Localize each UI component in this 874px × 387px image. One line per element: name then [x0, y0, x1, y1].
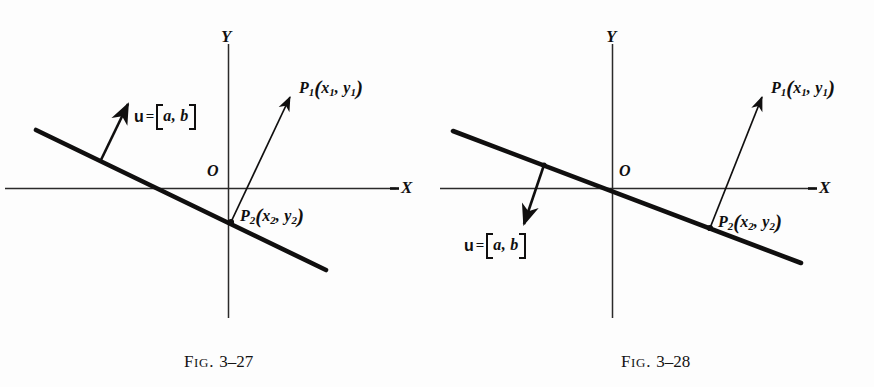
point-p1-coord-y-index: 1: [822, 86, 828, 98]
vector-components-bracket: a, b: [486, 235, 525, 256]
caption-prefix: F: [184, 352, 194, 371]
point-p2-coord-y-index: 2: [291, 214, 297, 226]
point-p1-name: P: [299, 79, 309, 96]
point-p2-coord-x-index: 2: [748, 220, 754, 232]
point-p1-name: P: [771, 79, 781, 96]
point-p2-dot: [707, 225, 713, 231]
vector-component-a: a: [493, 236, 501, 253]
point-p2-dot: [228, 219, 234, 225]
point-p2-index: 2: [250, 214, 256, 226]
figure-3-27-caption: FIG.3–27: [0, 352, 437, 372]
point-p1-index: 1: [309, 86, 315, 98]
caption-prefix-smallcaps: IG: [631, 355, 646, 370]
x-axis-label: X: [401, 179, 412, 196]
vector-component-comma: ,: [502, 236, 506, 253]
figure-3-27: Y X O u = a, b P1(x1, y1) P2(x2, y2) FIG…: [0, 0, 437, 387]
point-p1-coord-x-index: 1: [329, 86, 335, 98]
normal-vector-u: [524, 165, 544, 224]
vector-u-name: u: [464, 238, 474, 254]
point-p1-index: 1: [781, 86, 787, 98]
caption-number: 3–28: [656, 352, 690, 371]
figure-3-28-caption: FIG.3–28: [437, 352, 874, 372]
point-p1-label: P1(x1, y1): [771, 78, 835, 99]
normal-vector-u: [100, 104, 128, 162]
caption-prefix-smallcaps: IG: [194, 355, 209, 370]
point-p1-coord-y-index: 1: [350, 86, 356, 98]
given-line: [36, 130, 326, 270]
point-p2-coord-x-index: 2: [270, 214, 276, 226]
origin-label: O: [619, 163, 631, 179]
figure-3-28: Y X O u = a, b P1(x1, y1) P2(x2, y2) FIG…: [437, 0, 874, 387]
caption-period: .: [646, 352, 651, 371]
caption-prefix: F: [621, 352, 631, 371]
point-p2-name: P: [240, 207, 250, 224]
caption-number: 3–27: [219, 352, 253, 371]
point-p2-index: 2: [728, 220, 734, 232]
vector-u-name: u: [134, 109, 144, 125]
vector-component-comma: ,: [172, 107, 176, 124]
point-p1-label: P1(x1, y1): [299, 78, 363, 99]
point-p2-name: P: [718, 213, 728, 230]
caption-period: .: [209, 352, 214, 371]
vector-u-label: u = a, b: [464, 235, 526, 256]
x-axis-label: X: [819, 179, 830, 196]
origin-label: O: [207, 163, 219, 179]
vector-equals-sign: =: [146, 109, 155, 124]
point-p1-coord-x-index: 1: [801, 86, 807, 98]
point-p2-coord-y-index: 2: [769, 220, 775, 232]
vector-component-a: a: [163, 107, 171, 124]
vector-tail-dot: [541, 162, 546, 167]
point-p2-label: P2(x2, y2): [240, 206, 304, 227]
vector-u-label: u = a, b: [134, 106, 196, 127]
figure-3-28-drawing: [437, 0, 874, 340]
vector-p2-to-p1: [710, 97, 762, 228]
point-p2-label: P2(x2, y2): [718, 212, 782, 233]
vector-component-b: b: [510, 236, 518, 253]
figure-page: Y X O u = a, b P1(x1, y1) P2(x2, y2) FIG…: [0, 0, 874, 387]
y-axis-label: Y: [221, 28, 231, 45]
vector-equals-sign: =: [476, 238, 485, 253]
vector-components-bracket: a, b: [156, 106, 195, 127]
vector-component-b: b: [180, 107, 188, 124]
y-axis-label: Y: [606, 28, 616, 45]
